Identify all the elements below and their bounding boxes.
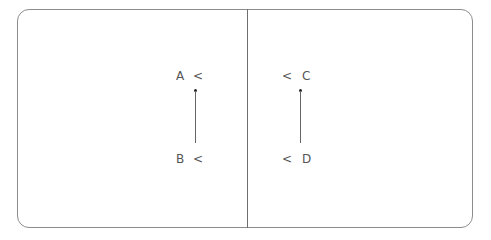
label-c: C: [302, 70, 311, 82]
label-a: A: [176, 70, 185, 82]
chevron-left-icon: <: [193, 70, 204, 82]
label-b: B: [176, 153, 185, 165]
chevron-left-icon: <: [282, 70, 293, 82]
label-d: D: [302, 153, 312, 165]
chevron-left-icon: <: [282, 153, 293, 165]
connector-line-ab: [195, 91, 196, 143]
chevron-left-icon: <: [193, 153, 204, 165]
diagram-frame: [17, 9, 473, 228]
panel-divider: [247, 9, 248, 228]
connector-line-cd: [300, 91, 301, 143]
